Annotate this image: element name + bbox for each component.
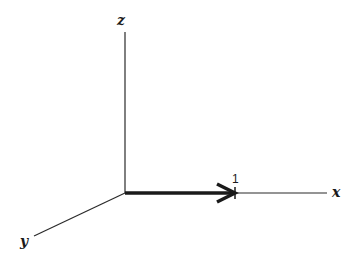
unit-vector-arrow [125,184,235,202]
y-axis-label: y [19,233,29,249]
y-axis [34,193,125,236]
unit-tick-label: 1 [232,172,239,186]
x-axis-label: x [331,184,341,200]
coordinate-diagram: 1 z x y [0,0,358,263]
z-axis-label: z [116,12,126,28]
